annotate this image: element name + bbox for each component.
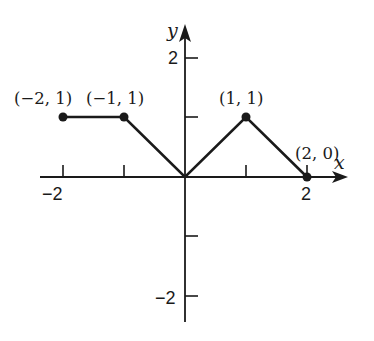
function-graph: y x −2 2 2 −2 (−2, 1) (−1, 1) (1, 1) (2,…: [0, 0, 374, 341]
y-axis-label: y: [166, 19, 178, 41]
point-neg1-1: [120, 113, 129, 122]
point-label-2-0: (2, 0): [295, 144, 339, 163]
point-1-1: [242, 113, 251, 122]
y-tick-label-2: 2: [168, 48, 178, 68]
x-tick-label-2: 2: [301, 184, 311, 204]
y-tick-label-neg2: −2: [155, 288, 176, 308]
point-label-1-1: (1, 1): [219, 89, 263, 108]
x-tick-label-neg2: −2: [42, 184, 63, 204]
point-neg2-1: [59, 113, 68, 122]
point-2-0: [303, 173, 312, 182]
point-label-neg2-1: (−2, 1): [14, 89, 72, 108]
point-label-neg1-1: (−1, 1): [86, 89, 144, 108]
